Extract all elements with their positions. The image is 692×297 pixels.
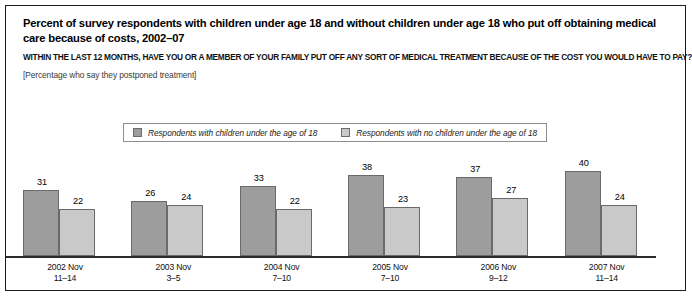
x-axis-tick-label: 2004 Nov7–10 [240,262,348,284]
bar: 22 [276,209,312,256]
chart-header: Percent of survey respondents with child… [23,16,673,80]
x-axis-tick-label: 2005 Nov7–10 [348,262,456,284]
bar: 31 [23,190,59,256]
bar-slot: 22 [59,158,95,256]
bar: 22 [59,209,95,256]
bar-group: 3122 [23,158,131,256]
x-axis-tick-label-date: 2006 Nov [462,262,534,273]
bar-slot: 24 [167,158,203,256]
bar-slot: 37 [456,158,492,256]
x-axis-tick-label-days: 3–5 [137,273,209,284]
bar-value-label: 38 [349,162,385,172]
bar: 27 [492,198,528,256]
bar-slot: 24 [601,158,637,256]
bar-group: 3727 [456,158,564,256]
bar-value-label: 24 [602,192,638,202]
bar-slot: 38 [348,158,384,256]
bar-group: 3322 [240,158,348,256]
chart-plot-area: 312226243322382337274024 [23,158,673,256]
bar: 24 [601,205,637,256]
bar-slot: 27 [492,158,528,256]
bar-group: 2624 [131,158,239,256]
bar-value-label: 33 [241,173,277,183]
bar-value-label: 26 [132,188,168,198]
bar-slot: 23 [384,158,420,256]
bar: 26 [131,201,167,256]
x-axis-line [6,256,656,258]
bar-value-label: 40 [566,158,602,168]
bar: 40 [565,171,601,256]
x-axis-tick-label-days: 7–10 [354,273,426,284]
bar-value-label: 27 [493,185,529,195]
x-axis-tick-label: 2006 Nov9–12 [456,262,564,284]
page-title: Percent of survey respondents with child… [23,16,673,45]
legend-swatch-icon-series-a [133,128,142,137]
bar-slot: 33 [240,158,276,256]
bar: 37 [456,177,492,256]
x-axis-labels: 2002 Nov11–142003 Nov3–52004 Nov7–102005… [23,262,673,284]
chart-question-text: WITHIN THE LAST 12 MONTHS, HAVE YOU OR A… [23,52,650,63]
legend-item-series-b: Respondents with no children under the a… [341,128,537,138]
chart-figure: Percent of survey respondents with child… [5,5,686,291]
bar-slot: 31 [23,158,59,256]
x-axis-tick-label-date: 2003 Nov [137,262,209,273]
legend-item-series-a: Respondents with children under the age … [133,128,317,138]
x-axis-tick-label-days: 11–14 [29,273,101,284]
bar: 24 [167,205,203,256]
chart-note-text: [Percentage who say they postponed treat… [23,70,673,80]
bar-group: 4024 [565,158,673,256]
bar-value-label: 22 [60,196,96,206]
x-axis-tick-label: 2007 Nov11–14 [565,262,673,284]
bar: 38 [348,175,384,256]
x-axis-tick-label: 2002 Nov11–14 [23,262,131,284]
legend-label-series-b: Respondents with no children under the a… [356,128,537,138]
bar-value-label: 31 [24,177,60,187]
legend-swatch-icon-series-b [341,128,350,137]
bar: 23 [384,207,420,256]
x-axis-tick-label: 2003 Nov3–5 [131,262,239,284]
bar-value-label: 22 [277,196,313,206]
bar-value-label: 23 [385,194,421,204]
bar-group: 3823 [348,158,456,256]
chart-legend: Respondents with children under the age … [123,123,547,142]
bar-slot: 26 [131,158,167,256]
legend-label-series-a: Respondents with children under the age … [148,128,317,138]
bar-value-label: 37 [457,164,493,174]
x-axis-tick-label-date: 2004 Nov [246,262,318,273]
x-axis-tick-label-date: 2005 Nov [354,262,426,273]
x-axis-tick-label-days: 7–10 [246,273,318,284]
bar-value-label: 24 [168,192,204,202]
bar: 33 [240,186,276,256]
x-axis-tick-label-days: 9–12 [462,273,534,284]
x-axis-tick-label-days: 11–14 [571,273,643,284]
bar-slot: 22 [276,158,312,256]
bar-slot: 40 [565,158,601,256]
x-axis-tick-label-date: 2007 Nov [571,262,643,273]
x-axis-tick-label-date: 2002 Nov [29,262,101,273]
